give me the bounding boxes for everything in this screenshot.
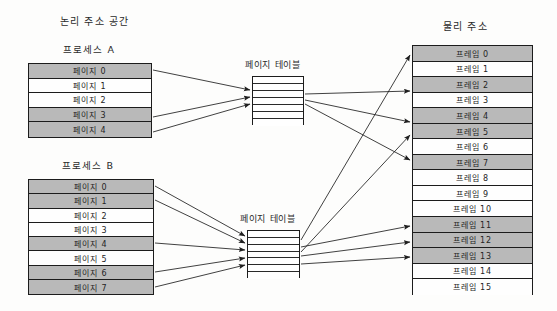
paging-diagram-canvas: 논리 주소 공간 물리 주소 프로세스 A 프로세스 B 페이지 테이블 페이지… [0, 0, 557, 311]
process-a-title: 프로세스 A [63, 42, 115, 56]
physical-frame-row: 프레임 4 [413, 108, 532, 124]
process-b-page-row: 페이지 4 [29, 237, 153, 251]
process-b-page-row: 페이지 7 [29, 280, 153, 294]
logical-address-space-title: 논리 주소 공간 [60, 13, 129, 28]
page-table-b-entry [248, 272, 299, 279]
physical-frame-row-label: 프레임 13 [453, 250, 492, 261]
process-a-page-row-label: 페이지 3 [73, 109, 106, 120]
process-b-page-row-label: 페이지 2 [74, 209, 107, 220]
physical-frame-row-label: 프레임 7 [456, 156, 489, 167]
arrow-group-process-b-to-page-table [155, 186, 245, 287]
page-table-a-entry [253, 112, 303, 119]
physical-frame-row: 프레임 6 [413, 139, 532, 155]
arrow-group-page-table-a-to-frames [305, 91, 410, 160]
physical-frame-row: 프레임 8 [413, 170, 532, 186]
process-b-page-row-label: 페이지 6 [74, 267, 107, 278]
physical-frame-row-label: 프레임 5 [456, 125, 489, 136]
process-b-page-row: 페이지 1 [29, 194, 153, 208]
physical-frame-row-label: 프레임 12 [453, 234, 492, 245]
process-b-page-row-label: 페이지 7 [74, 281, 107, 292]
physical-frame-row: 프레임 9 [413, 186, 532, 202]
page-table-b [247, 230, 300, 278]
physical-frame-row: 프레임 12 [413, 233, 532, 249]
process-a-page-row: 페이지 4 [29, 122, 151, 137]
physical-frame-row-label: 프레임 1 [456, 63, 489, 74]
physical-frame-row-label: 프레임 8 [456, 172, 489, 183]
process-b-page-row: 페이지 5 [29, 251, 153, 265]
page-table-a-entry [253, 91, 303, 98]
process-a-page-row: 페이지 1 [29, 79, 151, 94]
process-b-page-row: 페이지 6 [29, 266, 153, 280]
arrow-group-process-a-to-page-table [153, 70, 250, 132]
physical-frame-row-label: 프레임 0 [456, 47, 489, 58]
page-table-b-entry [248, 265, 299, 272]
physical-frame-row-label: 프레임 3 [456, 94, 489, 105]
process-a-page-row-label: 페이지 2 [73, 94, 106, 105]
page-table-a-entry [253, 84, 303, 91]
physical-frame-row-label: 프레임 6 [456, 141, 489, 152]
physical-frame-row: 프레임 1 [413, 62, 532, 78]
page-table-b-entry [248, 231, 299, 238]
page-table-b-title: 페이지 테이블 [240, 212, 296, 225]
process-b-title: 프로세스 B [62, 158, 114, 172]
physical-frame-row: 프레임 11 [413, 217, 532, 233]
process-a-page-row-label: 페이지 1 [73, 80, 106, 91]
physical-frame-row: 프레임 7 [413, 155, 532, 171]
page-table-b-entry [248, 258, 299, 265]
page-table-a-entry [253, 119, 303, 126]
process-b-page-list: 페이지 0페이지 1페이지 2페이지 3페이지 4페이지 5페이지 6페이지 7 [28, 179, 154, 295]
page-table-a-title: 페이지 테이블 [245, 58, 301, 71]
physical-frame-row: 프레임 3 [413, 93, 532, 109]
physical-frame-row-label: 프레임 9 [456, 187, 489, 198]
process-b-page-row: 페이지 0 [29, 180, 153, 194]
physical-frame-row: 프레임 5 [413, 124, 532, 140]
physical-frame-row: 프레임 14 [413, 264, 532, 280]
process-b-page-row-label: 페이지 1 [74, 195, 107, 206]
physical-frame-row: 프레임 2 [413, 77, 532, 93]
physical-frame-row-label: 프레임 15 [453, 281, 492, 292]
page-table-a-entry [253, 105, 303, 112]
process-a-page-row-label: 페이지 4 [73, 124, 106, 135]
page-table-b-entry [248, 245, 299, 252]
process-b-page-row-label: 페이지 4 [74, 238, 107, 249]
arrow-group-page-table-b-to-frames [301, 55, 410, 264]
physical-frame-row-label: 프레임 4 [456, 110, 489, 121]
process-b-page-row-label: 페이지 0 [74, 181, 107, 192]
physical-frame-row-label: 프레임 2 [456, 79, 489, 90]
process-b-page-row: 페이지 2 [29, 209, 153, 223]
page-table-a-entry [253, 98, 303, 105]
page-table-b-entry [248, 252, 299, 259]
physical-frame-row-label: 프레임 11 [453, 218, 492, 229]
physical-frame-row: 프레임 13 [413, 248, 532, 264]
process-b-page-row-label: 페이지 3 [74, 224, 107, 235]
process-a-page-row: 페이지 2 [29, 93, 151, 108]
page-table-a-entry [253, 77, 303, 84]
page-table-b-entry [248, 238, 299, 245]
process-b-page-row: 페이지 3 [29, 223, 153, 237]
physical-frame-row-label: 프레임 10 [453, 203, 492, 214]
physical-frame-row: 프레임 10 [413, 201, 532, 217]
page-table-a [252, 76, 304, 125]
process-b-page-row-label: 페이지 5 [74, 252, 107, 263]
process-a-page-list: 페이지 0페이지 1페이지 2페이지 3페이지 4 [28, 63, 152, 138]
physical-frame-list: 프레임 0프레임 1프레임 2프레임 3프레임 4프레임 5프레임 6프레임 7… [412, 45, 533, 295]
process-a-page-row-label: 페이지 0 [73, 65, 106, 76]
process-a-page-row: 페이지 0 [29, 64, 151, 79]
physical-frame-row: 프레임 0 [413, 46, 532, 62]
physical-frame-row-label: 프레임 14 [453, 265, 492, 276]
physical-address-title: 물리 주소 [443, 18, 488, 33]
process-a-page-row: 페이지 3 [29, 108, 151, 123]
physical-frame-row: 프레임 15 [413, 279, 532, 295]
